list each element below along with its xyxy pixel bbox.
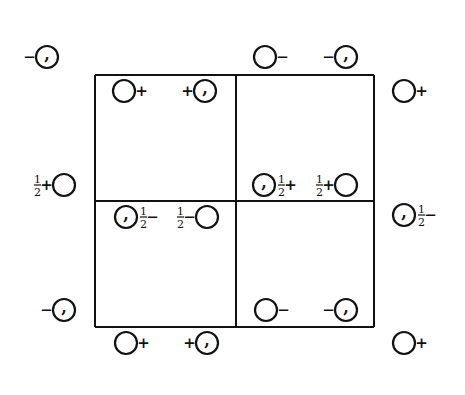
- height-label: −: [322, 301, 335, 319]
- unit-cell-grid: [95, 75, 374, 327]
- height-label: +: [183, 334, 196, 352]
- svg-text:−: −: [322, 301, 335, 319]
- svg-text:+: +: [415, 334, 428, 352]
- height-label: −: [40, 301, 53, 319]
- general-position: +: [393, 80, 428, 102]
- height-label: +: [135, 82, 148, 100]
- svg-text:−: −: [23, 48, 36, 66]
- enantiomorph-position: ,−: [40, 298, 75, 321]
- comma-mark-icon: ,: [61, 298, 67, 317]
- comma-mark-icon: ,: [261, 173, 267, 192]
- enantiomorph-position: ,12−: [115, 205, 159, 231]
- height-label: 12−: [418, 203, 437, 229]
- enantiomorph-position: ,+: [181, 79, 216, 102]
- general-position: +: [115, 332, 150, 354]
- general-position: −: [254, 46, 289, 68]
- svg-text:−: −: [146, 208, 159, 226]
- enantiomorph-position: ,12−: [393, 203, 437, 229]
- general-position: 12+: [316, 173, 357, 199]
- svg-text:+: +: [183, 334, 196, 352]
- height-label: +: [415, 82, 428, 100]
- svg-text:−: −: [276, 48, 289, 66]
- svg-text:−: −: [40, 301, 53, 319]
- height-label: 12+: [34, 173, 53, 199]
- height-label: −: [23, 48, 36, 66]
- position-circle-icon: [53, 174, 75, 196]
- svg-text:+: +: [135, 82, 148, 100]
- height-label: 12+: [278, 173, 297, 199]
- position-circle-icon: [115, 332, 137, 354]
- height-label: +: [415, 334, 428, 352]
- comma-mark-icon: ,: [204, 331, 210, 350]
- symmetry-diagram: ,−−,−+,++12+,12+12+,12−12−,12−,−−,−+,++: [0, 0, 465, 395]
- position-circle-icon: [113, 80, 135, 102]
- enantiomorph-position: ,−: [322, 45, 357, 68]
- position-circle-icon: [255, 299, 277, 321]
- svg-text:+: +: [181, 82, 194, 100]
- enantiomorph-position: ,−: [322, 298, 357, 321]
- position-circle-icon: [335, 174, 357, 196]
- svg-text:−: −: [424, 206, 437, 224]
- comma-mark-icon: ,: [343, 298, 349, 317]
- enantiomorph-position: ,+: [183, 331, 218, 354]
- general-position: +: [393, 332, 428, 354]
- general-position: 12−: [177, 205, 218, 231]
- general-position: 12+: [34, 173, 75, 199]
- comma-mark-icon: ,: [202, 79, 208, 98]
- comma-mark-icon: ,: [44, 45, 50, 64]
- height-label: 12−: [177, 205, 196, 231]
- height-label: +: [137, 334, 150, 352]
- height-label: 12+: [316, 173, 335, 199]
- height-label: 12−: [140, 205, 159, 231]
- svg-text:+: +: [284, 176, 297, 194]
- comma-mark-icon: ,: [123, 205, 129, 224]
- position-circle-icon: [196, 206, 218, 228]
- general-position: +: [113, 80, 148, 102]
- height-label: −: [322, 48, 335, 66]
- enantiomorph-position: ,12+: [253, 173, 297, 199]
- svg-text:−: −: [322, 48, 335, 66]
- position-circle-icon: [393, 332, 415, 354]
- height-label: +: [181, 82, 194, 100]
- position-circle-icon: [393, 80, 415, 102]
- height-label: −: [277, 301, 290, 319]
- enantiomorph-position: ,−: [23, 45, 58, 68]
- svg-text:+: +: [415, 82, 428, 100]
- svg-text:+: +: [137, 334, 150, 352]
- height-label: −: [276, 48, 289, 66]
- svg-text:−: −: [183, 208, 196, 226]
- svg-text:+: +: [322, 176, 335, 194]
- position-circle-icon: [254, 46, 276, 68]
- comma-mark-icon: ,: [401, 203, 407, 222]
- general-position: −: [255, 299, 290, 321]
- comma-mark-icon: ,: [343, 45, 349, 64]
- svg-text:+: +: [40, 176, 53, 194]
- svg-text:−: −: [277, 301, 290, 319]
